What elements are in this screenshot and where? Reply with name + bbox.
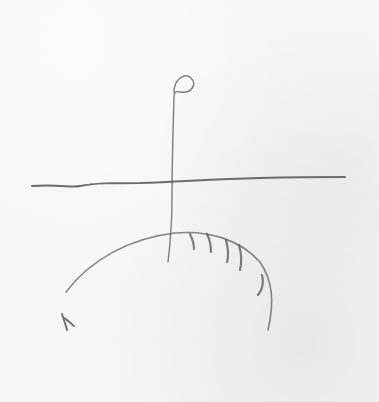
horizon-line <box>32 177 345 187</box>
small-mark <box>62 314 74 330</box>
sketch-paper <box>0 0 379 402</box>
hatched-arc <box>66 232 272 330</box>
pencil-sketch <box>0 0 379 402</box>
hatch-marks <box>190 234 263 295</box>
